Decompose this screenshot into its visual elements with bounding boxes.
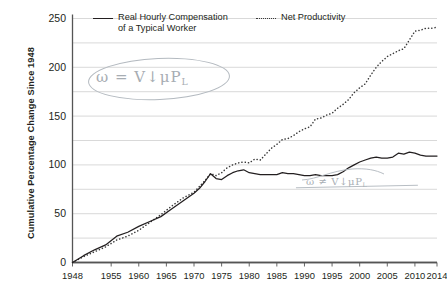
legend-item-net-productivity: Net Productivity: [256, 12, 345, 23]
plot-area: [0, 0, 447, 295]
legend-label-net-productivity: Net Productivity: [281, 12, 345, 23]
legend-item-real-hourly-compensation: Real Hourly Compensation of a Typical Wo…: [93, 12, 228, 34]
annotation-flourish-stroke: [300, 168, 388, 184]
legend-label-real-hourly-compensation: Real Hourly Compensation of a Typical Wo…: [118, 12, 228, 34]
legend-solid-line-icon: [93, 18, 113, 19]
legend-dotted-line-icon: [256, 18, 276, 19]
chart-legend: Real Hourly Compensation of a Typical Wo…: [93, 12, 423, 38]
productivity-pay-chart: Cumulative Percentage Change Since 1948 …: [0, 0, 447, 295]
gridlines: [73, 19, 438, 263]
